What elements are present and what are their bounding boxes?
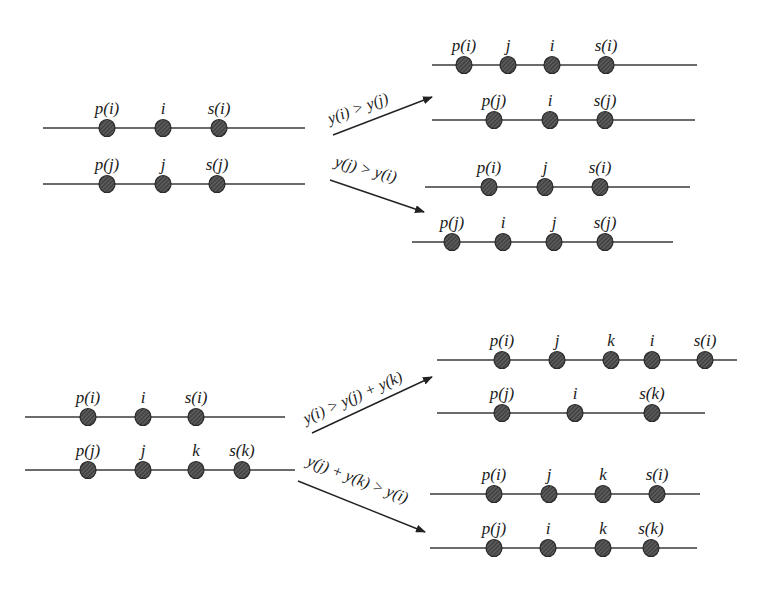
node-circle [188, 409, 204, 426]
node-label: p(i) [476, 158, 502, 177]
node-label: s(i) [646, 465, 669, 484]
node-circle [486, 112, 502, 129]
track: p(i)is(i) [25, 388, 285, 426]
node-circle [456, 57, 472, 74]
track: p(j)js(j) [43, 155, 305, 193]
node-circle [211, 120, 227, 137]
node-circle [549, 352, 565, 369]
arrow-icon [330, 180, 424, 212]
node-label: s(k) [638, 519, 664, 538]
condition-label: y(j) + y(k) > y(i) [303, 451, 411, 507]
node-circle [135, 462, 151, 479]
node-circle [537, 179, 553, 196]
track: p(i)jkis(i) [437, 331, 737, 369]
node-circle [597, 234, 613, 251]
node-circle [592, 179, 608, 196]
node-label: i [550, 36, 555, 55]
node-label: i [650, 331, 655, 350]
node-circle [644, 405, 660, 422]
node-label: s(j) [594, 91, 617, 110]
node-circle [603, 352, 619, 369]
node-label: j [159, 155, 166, 174]
panel-case-1-input: p(i)is(i)p(j)js(j) [43, 99, 305, 193]
node-circle [486, 486, 502, 503]
node-circle [546, 234, 562, 251]
node-circle [540, 540, 556, 557]
condition-label: y(i) > y(j) + y(k) [298, 368, 405, 429]
node-circle [494, 352, 510, 369]
node-circle [99, 176, 115, 193]
node-circle [595, 540, 611, 557]
panel-case-2-input: p(i)is(i)p(j)jks(k) [25, 388, 295, 479]
node-circle [155, 120, 171, 137]
condition-label: y(j) > y(i) [331, 152, 399, 186]
node-label: s(i) [185, 388, 208, 407]
node-circle [541, 486, 557, 503]
node-circle [234, 462, 250, 479]
node-circle [494, 405, 510, 422]
track: p(j)jks(k) [25, 441, 295, 479]
node-circle [481, 179, 497, 196]
node-circle [644, 352, 660, 369]
node-label: s(i) [208, 99, 231, 118]
node-label: k [192, 441, 200, 460]
node-circle [209, 176, 225, 193]
node-circle [99, 120, 115, 137]
node-circle [80, 462, 96, 479]
node-label: p(i) [75, 388, 101, 407]
node-label: p(i) [481, 465, 507, 484]
node-label: s(j) [206, 155, 229, 174]
node-label: j [550, 213, 557, 232]
node-label: j [139, 441, 146, 460]
node-circle [542, 112, 558, 129]
node-circle [597, 112, 613, 129]
node-circle [80, 409, 96, 426]
arrow-case2-b: y(j) + y(k) > y(i) [298, 451, 425, 532]
arrow-case1-a: y(i) > y(j) [323, 89, 432, 135]
node-label: k [607, 331, 615, 350]
node-label: j [541, 158, 548, 177]
node-circle [649, 486, 665, 503]
node-label: p(j) [75, 441, 101, 460]
node-label: p(j) [439, 213, 465, 232]
node-circle [697, 352, 713, 369]
node-label: s(i) [595, 36, 618, 55]
node-circle [188, 462, 204, 479]
arrows-layer: y(i) > y(j)y(j) > y(i)y(i) > y(j) + y(k)… [298, 89, 432, 532]
node-circle [135, 409, 151, 426]
node-circle [486, 540, 502, 557]
node-label: s(k) [229, 441, 255, 460]
node-label: s(i) [694, 331, 717, 350]
node-label: p(i) [489, 331, 515, 350]
track: p(i)jks(i) [430, 465, 700, 503]
node-circle [598, 57, 614, 74]
node-label: p(j) [481, 91, 507, 110]
track: p(j)ijs(j) [412, 213, 673, 251]
node-label: j [553, 331, 560, 350]
node-circle [444, 234, 460, 251]
node-circle [567, 405, 583, 422]
track: p(j)is(k) [437, 384, 705, 422]
track: p(i)js(i) [425, 158, 690, 196]
arrow-case2-a: y(i) > y(j) + y(k) [298, 368, 432, 433]
node-label: i [548, 91, 553, 110]
node-label: j [545, 465, 552, 484]
node-label: s(i) [589, 158, 612, 177]
node-label: p(j) [481, 519, 507, 538]
track: p(j)iks(k) [430, 519, 697, 557]
track: p(i)is(i) [43, 99, 305, 137]
node-label: i [546, 519, 551, 538]
node-circle [495, 234, 511, 251]
panel-case-2-result-b: p(i)jks(i)p(j)iks(k) [430, 465, 700, 557]
node-label: p(i) [94, 99, 120, 118]
node-label: s(j) [594, 213, 617, 232]
panel-case-1-result-b: p(i)js(i)p(j)ijs(j) [412, 158, 690, 251]
node-label: p(i) [451, 36, 477, 55]
node-circle [500, 57, 516, 74]
condition-label: y(i) > y(j) [323, 89, 390, 128]
local-search-move-diagram: p(i)is(i)p(j)js(j)p(i)jis(i)p(j)is(j)p(i… [0, 0, 765, 589]
node-circle [544, 57, 560, 74]
track: p(i)jis(i) [432, 36, 697, 74]
node-label: k [599, 519, 607, 538]
node-label: k [599, 465, 607, 484]
